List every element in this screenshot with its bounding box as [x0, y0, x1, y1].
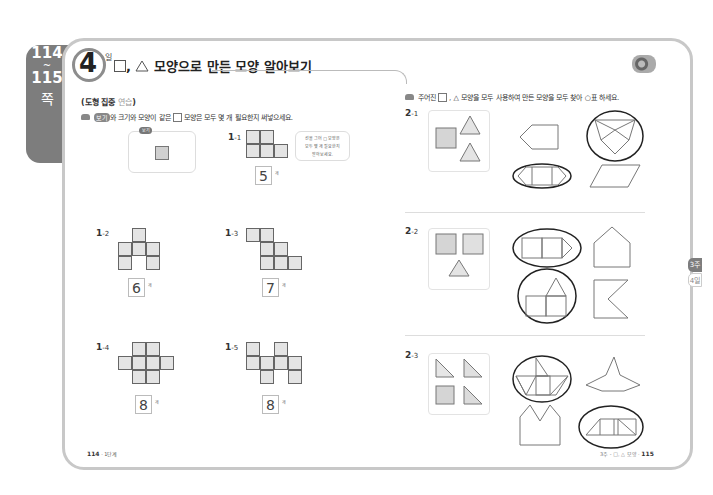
footer-left-text: · 1단계: [101, 451, 117, 457]
answer-box-1-5[interactable]: 8: [262, 395, 279, 414]
triangle-shape-icon: [135, 60, 149, 72]
option-shape-2-2-d[interactable]: [594, 280, 630, 318]
footer-left-page-number: 114: [87, 450, 100, 457]
example-box: 보기: [128, 131, 196, 173]
instr-part2: 모양을 모두 사용하여 만든 모양을 모두 찾아: [461, 94, 582, 102]
footer-right-page-number: 115: [641, 450, 654, 457]
answer-box-1-3[interactable]: 7: [262, 278, 279, 297]
left-instruction: 보기와 크기와 모양이 같은모양은 모두 몇 개 필요한지 써넣으세요.: [81, 112, 293, 122]
square-blank-icon: [173, 113, 182, 122]
problem-label-2-3: 2-3: [405, 350, 418, 360]
option-shape-2-3-a-circled[interactable]: [512, 355, 572, 403]
pencil-bullet-icon: [405, 94, 414, 100]
instr-part1: 주어진: [418, 94, 436, 102]
hint-box: 선을 그어 □ 모양은모두 몇 개 필요한지알아보세요.: [295, 131, 350, 161]
option-shape-2-1-a[interactable]: [520, 125, 560, 149]
option-shape-2-2-c-circled[interactable]: [516, 268, 578, 324]
option-shape-2-1-d[interactable]: [590, 165, 640, 187]
section-label-bold: 도형 집중: [85, 98, 116, 107]
example-tag: 보기: [139, 127, 152, 134]
unit-label: 개: [155, 399, 159, 405]
problem-label-1-2: 1-2: [96, 228, 109, 238]
instr-part2: 모양은 모두 몇 개 필요한지 써넣으세요.: [184, 114, 293, 122]
example-square: [155, 146, 169, 160]
footer-right-text: 3주 - □, △ 모양 ·: [600, 451, 640, 457]
given-shapes-2-2-drawing: [428, 228, 490, 290]
option-shape-2-3-c[interactable]: [520, 405, 560, 445]
option-shape-2-2-b[interactable]: [594, 227, 630, 267]
day-number: 4: [79, 48, 97, 78]
footer-left: 114 · 1단계: [87, 450, 118, 457]
chapter-tab-week[interactable]: 3주: [688, 258, 702, 272]
day-label: 일: [105, 51, 112, 62]
title-separator: ,: [126, 59, 131, 74]
answer-box-1-2[interactable]: 6: [128, 278, 145, 297]
problem-label-2-1: 2-1: [405, 108, 418, 118]
section-divider: [405, 212, 645, 213]
bogi-pill: 보기: [94, 113, 110, 122]
given-shapes-2-3-drawing: [428, 353, 490, 415]
problem-label-1-4: 1-4: [96, 342, 109, 352]
instr-part1: 와 크기와 모양이 같은: [110, 114, 171, 122]
option-shape-2-3-b[interactable]: [586, 357, 642, 393]
option-shape-2-1-c-circled[interactable]: [512, 163, 572, 189]
title-underline: [212, 70, 407, 84]
section-label: (도형 집중 연습): [81, 96, 136, 107]
given-shapes-2-1-drawing: [428, 110, 490, 172]
unit-label: 개: [282, 399, 286, 405]
chapter-tab-day[interactable]: 4일: [688, 273, 702, 287]
option-shape-2-2-a-circled[interactable]: [512, 228, 582, 268]
section-label-light: 연습: [118, 98, 132, 107]
answer-box-1-1[interactable]: 5: [255, 166, 272, 185]
answer-box-1-4[interactable]: 8: [135, 395, 152, 414]
day-badge: 4 일: [72, 48, 106, 82]
right-instruction: 주어진, △ 모양을 모두 사용하여 만든 모양을 모두 찾아 ○표 하세요.: [405, 92, 619, 102]
problem-label-2-2: 2-2: [405, 226, 418, 236]
unit-label: 개: [282, 282, 286, 288]
square-blank-icon: [438, 93, 447, 102]
mascot-icon: [632, 55, 656, 73]
option-shape-2-1-b-circled[interactable]: [585, 110, 645, 162]
section-divider: [405, 335, 645, 336]
problem-label-1-5: 1-5: [225, 342, 238, 352]
square-shape-icon: [114, 60, 126, 72]
option-shape-2-3-d-circled[interactable]: [578, 405, 644, 449]
problem-label-1-3: 1-3: [225, 228, 238, 238]
instr-part3: 표 하세요.: [591, 94, 619, 102]
pencil-bullet-icon: [81, 114, 90, 120]
footer-right: 3주 - □, △ 모양 · 115: [600, 450, 654, 457]
unit-label: 개: [275, 170, 279, 176]
problem-label-1-1: 1-1: [228, 132, 241, 142]
unit-label: 개: [148, 282, 152, 288]
